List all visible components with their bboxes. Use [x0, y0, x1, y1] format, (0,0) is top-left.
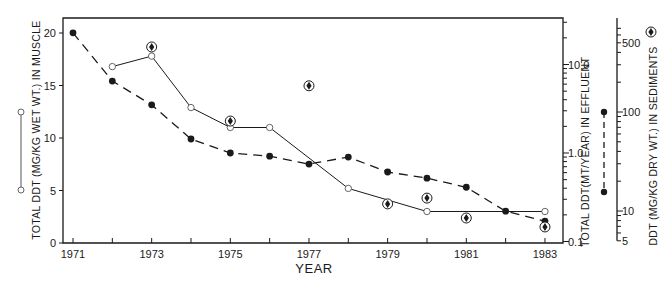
muscle-point	[266, 124, 272, 130]
legend-effluent-marker	[601, 109, 607, 115]
left-tick-label: 15	[44, 80, 56, 92]
x-tick-label: 1977	[297, 248, 321, 260]
sediments-tick-label: 500	[622, 37, 640, 49]
effluent-point	[345, 154, 352, 161]
left-tick-label: 10	[44, 132, 56, 144]
left-axis-title: TOTAL DDT (MG/KG WET WT.) IN MUSCLE	[30, 20, 42, 239]
sediments-axis-title: DDT (MG/KG DRY WT.) IN SEDIMENTS	[647, 46, 659, 245]
sediments-tick-label: 5	[622, 235, 628, 247]
left-tick-label: 0	[50, 237, 56, 249]
effluent-point	[463, 184, 470, 191]
x-tick-label: 1981	[454, 248, 478, 260]
effluent-point	[109, 78, 116, 85]
effluent-point	[266, 153, 273, 160]
x-tick-label: 1971	[61, 248, 85, 260]
effluent-point	[70, 29, 77, 36]
muscle-point	[188, 104, 194, 110]
x-tick-label: 1983	[533, 248, 557, 260]
muscle-point	[109, 63, 115, 69]
x-tick-label: 1979	[375, 248, 399, 260]
series-line-0	[112, 56, 545, 211]
sediment-point	[383, 199, 393, 209]
muscle-point	[542, 208, 548, 214]
sediment-point	[461, 213, 471, 223]
legend-sediment-marker	[646, 27, 656, 37]
muscle-point	[424, 208, 430, 214]
effluent-point	[502, 208, 509, 215]
x-tick-label: 1973	[139, 248, 163, 260]
plot-frame	[63, 18, 563, 243]
muscle-point	[148, 53, 154, 59]
x-tick-label: 1975	[218, 248, 242, 260]
effluent-point	[188, 136, 195, 143]
left-tick-label: 5	[50, 185, 56, 197]
x-axis-title: YEAR	[295, 261, 332, 276]
effluent-point	[424, 175, 431, 182]
sediment-point	[147, 42, 157, 52]
effluent-point	[227, 150, 234, 157]
legend-muscle-marker	[18, 109, 24, 115]
sediments-tick-label: 100	[622, 106, 640, 118]
sediment-point	[225, 116, 235, 126]
left-tick-label: 20	[44, 27, 56, 39]
effluent-axis-title: TOTAL DDT(MT/YEAR) IN EFFLUENT	[579, 57, 591, 248]
muscle-point	[345, 185, 351, 191]
legend-muscle-marker	[18, 187, 24, 193]
series-line-1	[73, 33, 545, 221]
sediment-point	[540, 222, 550, 232]
sediment-point	[304, 81, 314, 91]
effluent-point	[384, 169, 391, 176]
sediments-tick-label: 10	[622, 205, 634, 217]
effluent-point	[306, 161, 313, 168]
sediment-point	[422, 193, 432, 203]
effluent-point	[148, 101, 155, 108]
ddt-chart: 1971197319751977197919811983 05101520 0.…	[0, 0, 671, 282]
legend-effluent-marker	[601, 189, 607, 195]
